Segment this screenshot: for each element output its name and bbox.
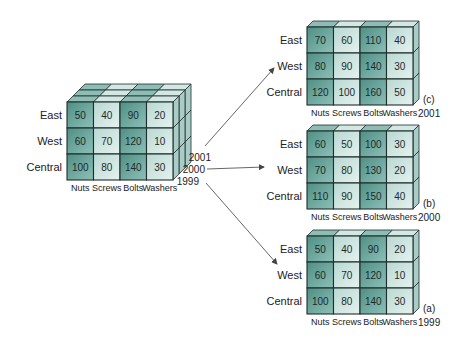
slice-column-label: Screws xyxy=(332,317,362,327)
slice-cell-value: 100 xyxy=(365,139,382,150)
slice-cell-value: 80 xyxy=(341,296,353,307)
slice-column-label: Bolts xyxy=(363,212,384,222)
slice-cell-value: 100 xyxy=(338,87,355,98)
slice-cell-value: 120 xyxy=(365,270,382,281)
slice-tag: (c) xyxy=(423,94,435,105)
slice-column-label: Screws xyxy=(332,212,362,222)
cube-cell-value: 80 xyxy=(101,162,113,173)
slice-cell-value: 40 xyxy=(341,244,353,255)
slice-2000: 6050100307080130201109015040EastWestCent… xyxy=(267,125,441,223)
slice-cell-value: 90 xyxy=(368,244,380,255)
cube-column-label: Nuts xyxy=(71,183,90,193)
slice-cell-value: 60 xyxy=(315,270,327,281)
slice-cell-value: 20 xyxy=(394,165,406,176)
cube-row-label: West xyxy=(37,135,62,147)
slice-year: 2001 xyxy=(418,108,441,119)
cube-row-label: Central xyxy=(27,161,62,173)
cube-cell-value: 50 xyxy=(75,110,87,121)
cube-column-label: Bolts xyxy=(123,183,144,193)
slice-column-label: Bolts xyxy=(363,317,384,327)
slices: 70601104080901403012010016050EastWestCen… xyxy=(267,21,441,328)
slice-year: 1999 xyxy=(418,317,441,328)
slice-column-label: Nuts xyxy=(311,212,330,222)
slice-cell-value: 100 xyxy=(312,296,329,307)
slice-tag: (a) xyxy=(423,303,435,314)
slice-cell-value: 40 xyxy=(394,35,406,46)
slice-cell-value: 160 xyxy=(365,87,382,98)
slice-column-label: Bolts xyxy=(363,108,384,118)
slice-cell-value: 70 xyxy=(341,270,353,281)
slice-side-face xyxy=(413,73,419,105)
slice-cell-value: 60 xyxy=(341,35,353,46)
cube-cell-value: 90 xyxy=(128,110,140,121)
cube-cell-value: 30 xyxy=(154,162,166,173)
arrow-to-2000 xyxy=(207,167,264,169)
slice-row-label: West xyxy=(277,164,302,176)
slice-column-label: Washers xyxy=(382,317,418,327)
slice-cell-value: 10 xyxy=(394,270,406,281)
slice-column-label: Nuts xyxy=(311,108,330,118)
slice-row-label: West xyxy=(277,60,302,72)
slice-cell-value: 90 xyxy=(341,191,353,202)
slice-column-label: Washers xyxy=(382,212,418,222)
slice-cell-value: 20 xyxy=(394,244,406,255)
cube-cell-value: 40 xyxy=(101,110,113,121)
cube-cell-value: 120 xyxy=(125,136,142,147)
cube-year-label: 2000 xyxy=(183,164,206,175)
slice-year: 2000 xyxy=(418,212,441,223)
cube-cell-value: 140 xyxy=(125,162,142,173)
slice-cell-value: 50 xyxy=(394,87,406,98)
slice-cell-value: 30 xyxy=(394,61,406,72)
cube-cell-value: 10 xyxy=(154,136,166,147)
slice-column-label: Nuts xyxy=(311,317,330,327)
arrow-to-2001 xyxy=(205,68,274,146)
slice-cell-value: 150 xyxy=(365,191,382,202)
slice-cell-value: 60 xyxy=(315,139,327,150)
cube-column-label: Screws xyxy=(92,183,122,193)
slice-row-label: East xyxy=(280,34,302,46)
slice-cell-value: 140 xyxy=(365,61,382,72)
slice-1999: 504090206070120101008014030EastWestCentr… xyxy=(267,230,441,328)
slice-row-label: Central xyxy=(267,295,302,307)
cube-cell-value: 70 xyxy=(101,136,113,147)
slice-2001: 70601104080901403012010016050EastWestCen… xyxy=(267,21,441,119)
source-cube: 504090206070120101008014030EastWestCentr… xyxy=(27,84,212,193)
slice-cell-value: 40 xyxy=(394,191,406,202)
cube-year-label: 2001 xyxy=(189,152,212,163)
slice-cell-value: 110 xyxy=(312,191,328,202)
slice-row-label: West xyxy=(277,269,302,281)
slice-cell-value: 130 xyxy=(365,165,382,176)
slice-cell-value: 110 xyxy=(365,35,381,46)
slice-cell-value: 70 xyxy=(315,165,327,176)
cube-cell-value: 100 xyxy=(72,162,89,173)
data-cube-diagram: 504090206070120101008014030EastWestCentr… xyxy=(0,0,464,339)
cube-column-label: Washers xyxy=(142,183,178,193)
slice-tag: (b) xyxy=(423,198,435,209)
slice-column-label: Screws xyxy=(332,108,362,118)
slice-cell-value: 30 xyxy=(394,139,406,150)
slice-cell-value: 70 xyxy=(315,35,327,46)
slice-row-label: Central xyxy=(267,190,302,202)
slice-side-face xyxy=(413,282,419,314)
slice-cell-value: 90 xyxy=(341,61,353,72)
slice-row-label: Central xyxy=(267,86,302,98)
slice-row-label: East xyxy=(280,243,302,255)
slice-cell-value: 80 xyxy=(341,165,353,176)
slice-cell-value: 140 xyxy=(365,296,382,307)
cube-cell-value: 60 xyxy=(75,136,87,147)
cube-cell-value: 20 xyxy=(154,110,166,121)
slice-row-label: East xyxy=(280,138,302,150)
slice-cell-value: 120 xyxy=(312,87,329,98)
slice-cell-value: 50 xyxy=(341,139,353,150)
slice-cell-value: 30 xyxy=(394,296,406,307)
cube-year-label: 1999 xyxy=(177,176,200,187)
slice-side-face xyxy=(413,177,419,209)
slice-column-label: Washers xyxy=(382,108,418,118)
cube-row-label: East xyxy=(40,109,62,121)
slice-cell-value: 80 xyxy=(315,61,327,72)
slice-cell-value: 50 xyxy=(315,244,327,255)
